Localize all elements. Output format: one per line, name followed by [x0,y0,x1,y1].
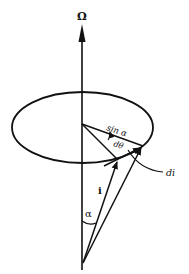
alpha-label: α [85,208,92,219]
dtheta-label: dθ [112,139,124,151]
vector-i-plus-di [83,148,141,263]
precession-diagram: Ω sin α dθ di i α [0,0,189,274]
omega-label: Ω [77,10,87,23]
alpha-arc [82,221,96,224]
i-label: i [98,185,102,196]
omega-axis [79,24,86,270]
di-leader-line [128,150,163,172]
omega-arrowhead-icon [79,24,86,42]
di-label: di [166,167,175,178]
